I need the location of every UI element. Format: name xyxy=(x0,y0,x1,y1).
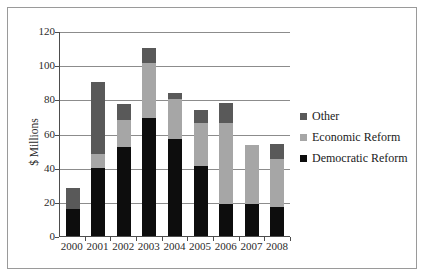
y-axis-tick-label: 20 xyxy=(27,197,55,208)
bar-segment xyxy=(194,123,208,166)
bar-segment xyxy=(194,110,208,124)
bar-group xyxy=(60,32,86,236)
stacked-bar xyxy=(270,144,284,236)
x-axis-tick-labels: 200020012002200320042005200620072008 xyxy=(59,241,290,252)
x-axis-tick-label: 2004 xyxy=(162,241,188,252)
y-axis-tick-mark xyxy=(55,32,59,33)
bar-segment xyxy=(142,118,156,236)
x-axis-tick-label: 2003 xyxy=(136,241,162,252)
bar-segment xyxy=(117,120,131,147)
bar-segment xyxy=(270,159,284,207)
y-axis-tick-label: 40 xyxy=(27,163,55,174)
x-axis-tick-label: 2001 xyxy=(85,241,111,252)
legend-swatch-icon xyxy=(300,134,307,141)
bar-series-container xyxy=(60,32,290,236)
y-axis-tick-mark xyxy=(55,66,59,67)
stacked-bar xyxy=(245,145,259,236)
plot-area xyxy=(59,32,290,237)
x-axis-tick-label: 2002 xyxy=(110,241,136,252)
bar-segment xyxy=(168,99,182,138)
legend-item: Democratic Reform xyxy=(300,152,418,164)
x-axis-tick-label: 2008 xyxy=(264,241,290,252)
x-axis-tick-mark xyxy=(136,237,137,241)
x-axis-tick-mark xyxy=(213,237,214,241)
x-axis-tick-label: 2000 xyxy=(59,241,85,252)
legend-item: Economic Reform xyxy=(300,131,418,143)
bar-segment xyxy=(168,93,182,100)
legend-item-label: Economic Reform xyxy=(312,131,400,143)
x-axis-tick-mark xyxy=(239,237,240,241)
stacked-bar xyxy=(91,82,105,236)
bar-segment xyxy=(219,103,233,124)
bar-segment xyxy=(270,207,284,236)
x-axis-tick-mark xyxy=(85,237,86,241)
chart-figure: $ Millions 020406080100120 2000200120022… xyxy=(0,0,425,278)
bar-group xyxy=(264,32,290,236)
legend-item-label: Other xyxy=(312,110,339,122)
stacked-bar xyxy=(194,110,208,236)
stacked-bar xyxy=(142,48,156,236)
bar-segment xyxy=(91,82,105,154)
y-axis-tick-mark xyxy=(55,203,59,204)
y-axis-tick-labels: $ Millions 020406080100120 xyxy=(22,32,55,237)
bar-segment xyxy=(168,139,182,236)
y-axis-tick-label: 120 xyxy=(27,26,55,37)
x-axis-tick-label: 2005 xyxy=(187,241,213,252)
stacked-bar xyxy=(219,103,233,236)
bar-segment xyxy=(142,63,156,118)
legend-item: Other xyxy=(300,110,418,122)
bar-segment xyxy=(117,104,131,119)
bar-group xyxy=(111,32,137,236)
y-axis-tick-mark xyxy=(55,100,59,101)
y-axis-tick-mark xyxy=(55,237,59,238)
bar-group xyxy=(162,32,188,236)
bar-segment xyxy=(219,204,233,236)
x-axis-tick-mark xyxy=(187,237,188,241)
bar-segment xyxy=(219,123,233,203)
bar-segment xyxy=(91,168,105,236)
bar-segment xyxy=(66,209,80,236)
bar-group xyxy=(137,32,163,236)
y-axis-tick-mark xyxy=(55,135,59,136)
y-axis-tick-mark xyxy=(55,169,59,170)
x-axis-tick-label: 2006 xyxy=(213,241,239,252)
x-axis-tick-mark xyxy=(162,237,163,241)
legend-item-label: Democratic Reform xyxy=(312,152,408,164)
x-axis-tick-mark xyxy=(290,237,291,241)
bar-segment xyxy=(117,147,131,236)
stacked-bar xyxy=(66,188,80,236)
bar-group xyxy=(213,32,239,236)
legend-swatch-icon xyxy=(300,155,307,162)
bar-segment xyxy=(245,204,259,236)
y-axis-tick-label: 0 xyxy=(27,231,55,242)
legend-swatch-icon xyxy=(300,113,307,120)
y-axis-tick-label: 60 xyxy=(27,129,55,140)
stacked-bar xyxy=(168,93,182,236)
bar-group xyxy=(86,32,112,236)
stacked-bar xyxy=(117,104,131,236)
bar-segment xyxy=(66,188,80,209)
chart-legend: OtherEconomic ReformDemocratic Reform xyxy=(300,110,418,173)
bar-group xyxy=(188,32,214,236)
bar-group xyxy=(239,32,265,236)
bar-segment xyxy=(91,154,105,168)
bar-segment xyxy=(245,145,259,203)
y-axis-tick-label: 80 xyxy=(27,94,55,105)
x-axis-tick-label: 2007 xyxy=(239,241,265,252)
bar-segment xyxy=(270,144,284,159)
bar-segment xyxy=(142,48,156,63)
y-axis-tick-label: 100 xyxy=(27,60,55,71)
x-axis-tick-mark xyxy=(110,237,111,241)
x-axis-tick-mark xyxy=(264,237,265,241)
bar-segment xyxy=(194,166,208,236)
